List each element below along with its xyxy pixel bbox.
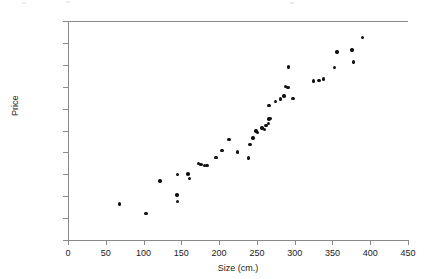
data-point [158, 179, 161, 182]
y-axis-tick [63, 43, 68, 44]
x-axis-tick-label: 350 [312, 249, 352, 258]
x-axis-tick-label: 300 [275, 249, 315, 258]
data-point [361, 36, 364, 39]
x-axis-tick-label: 0 [48, 249, 88, 258]
data-point [279, 97, 282, 100]
x-axis-tick [219, 240, 220, 245]
data-point [176, 173, 179, 176]
data-point [248, 143, 251, 146]
x-axis-tick [370, 240, 371, 245]
data-point [263, 128, 266, 131]
data-point [267, 122, 270, 125]
x-axis-tick-label: 200 [199, 249, 239, 258]
x-axis-tick [257, 240, 258, 245]
data-point [312, 79, 315, 82]
scatter-chart-figure: $0.00$5.00$10.00$15.00$20.00$25.00$30.00… [0, 0, 429, 279]
x-axis-tick [295, 240, 296, 245]
x-axis-tick-label: 400 [350, 249, 390, 258]
y-axis-tick [63, 87, 68, 88]
y-axis-title: Price [10, 95, 20, 116]
data-point [274, 100, 277, 103]
data-point [144, 212, 147, 215]
data-point [251, 136, 254, 139]
y-axis-tick [63, 174, 68, 175]
data-point [352, 60, 355, 63]
data-point [269, 117, 272, 120]
x-axis-title: Size (cm.) [68, 263, 408, 273]
data-point [322, 77, 325, 80]
x-axis-tick [181, 240, 182, 245]
x-axis-tick-label: 150 [161, 249, 201, 258]
x-axis-tick-label: 450 [388, 249, 428, 258]
data-point [227, 138, 230, 141]
x-axis-tick-label: 50 [86, 249, 126, 258]
x-axis-tick-label: 250 [237, 249, 277, 258]
data-point [282, 94, 285, 97]
data-point [335, 50, 338, 53]
y-axis-tick [63, 21, 68, 22]
data-point [247, 156, 250, 159]
x-axis-tick [144, 240, 145, 245]
x-axis-tick-label: 100 [124, 249, 164, 258]
data-point [291, 97, 294, 100]
data-point [267, 104, 270, 107]
x-axis-tick [68, 240, 69, 245]
data-point [205, 164, 208, 167]
data-point [175, 193, 178, 196]
data-point [286, 86, 289, 89]
data-point [186, 172, 189, 175]
data-points-layer [0, 0, 429, 279]
data-point [236, 150, 239, 153]
x-axis-tick [408, 240, 409, 245]
y-axis-tick [63, 218, 68, 219]
data-point [176, 200, 179, 203]
x-axis-tick [106, 240, 107, 245]
y-axis-tick [63, 196, 68, 197]
data-point [220, 149, 223, 152]
data-point [214, 156, 217, 159]
data-point [188, 177, 191, 180]
data-point [317, 79, 320, 82]
y-axis-tick [63, 131, 68, 132]
data-point [118, 202, 121, 205]
data-point [287, 65, 290, 68]
y-axis-tick [63, 65, 68, 66]
data-point [256, 131, 259, 134]
data-point [333, 66, 336, 69]
x-axis-tick [332, 240, 333, 245]
y-axis-tick [63, 109, 68, 110]
data-point [350, 48, 353, 51]
y-axis-tick [63, 152, 68, 153]
